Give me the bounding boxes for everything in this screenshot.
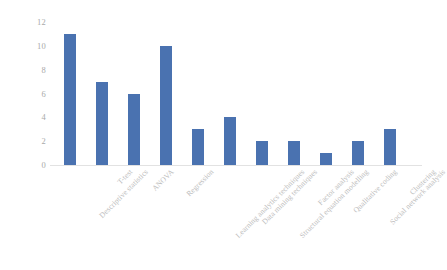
bar-slot xyxy=(86,14,118,165)
bar-slot xyxy=(150,14,182,165)
x-axis-baseline xyxy=(50,165,422,166)
y-axis-tick-label: 8 xyxy=(0,66,46,75)
bar-slot xyxy=(374,14,406,165)
bar[interactable] xyxy=(128,94,140,166)
bar[interactable] xyxy=(224,117,236,165)
bar-slot xyxy=(278,14,310,165)
bar-slot xyxy=(54,14,86,165)
x-axis-category-label: Social network analysis xyxy=(389,168,447,226)
bar-slot xyxy=(182,14,214,165)
bar[interactable] xyxy=(96,82,108,165)
y-axis-tick-label: 10 xyxy=(0,42,46,51)
bar-slot xyxy=(214,14,246,165)
bar-series xyxy=(50,14,422,165)
bar[interactable] xyxy=(320,153,332,165)
bar[interactable] xyxy=(384,129,396,165)
bar-slot xyxy=(246,14,278,165)
bar[interactable] xyxy=(192,129,204,165)
x-axis-category-label: Learning analytics techniques xyxy=(234,168,306,240)
bar[interactable] xyxy=(288,141,300,165)
y-axis-tick-label: 4 xyxy=(0,113,46,122)
x-axis-category-labels: Descriptive statisticsT-testANOVARegress… xyxy=(50,168,431,270)
bar-slot xyxy=(342,14,374,165)
bar-slot xyxy=(118,14,150,165)
y-axis-tick-label: 2 xyxy=(0,137,46,146)
bar[interactable] xyxy=(64,34,76,165)
x-axis-category-label: ANOVA xyxy=(151,168,175,192)
y-axis-tick-label: 12 xyxy=(0,18,46,27)
y-axis: 024681012 xyxy=(0,0,46,270)
x-axis-category-label: Regression xyxy=(185,168,215,198)
bar-slot xyxy=(310,14,342,165)
bar[interactable] xyxy=(160,46,172,165)
y-axis-tick-label: 0 xyxy=(0,161,46,170)
bar[interactable] xyxy=(256,141,268,165)
bar[interactable] xyxy=(352,141,364,165)
y-axis-tick-label: 6 xyxy=(0,90,46,99)
